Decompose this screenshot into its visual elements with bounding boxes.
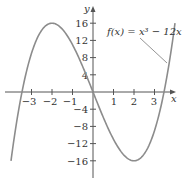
svg-text:−2: −2 bbox=[43, 96, 58, 107]
label-leader-line bbox=[140, 38, 167, 63]
svg-text:−8: −8 bbox=[73, 121, 88, 132]
x-tick-labels: −3 −2 −1 1 2 3 bbox=[22, 96, 158, 107]
svg-text:12: 12 bbox=[75, 35, 88, 46]
y-axis-label: y bbox=[83, 3, 90, 14]
svg-text:1: 1 bbox=[111, 96, 117, 107]
y-axis-arrow-icon bbox=[91, 6, 96, 12]
function-plot: −3 −2 −1 1 2 3 16 12 8 4 −4 −8 −12 −16 x… bbox=[0, 0, 183, 183]
svg-text:−3: −3 bbox=[22, 96, 37, 107]
x-axis-label: x bbox=[171, 93, 177, 104]
svg-text:−12: −12 bbox=[67, 138, 88, 149]
svg-text:2: 2 bbox=[131, 96, 137, 107]
svg-text:8: 8 bbox=[82, 52, 88, 63]
svg-text:−16: −16 bbox=[67, 156, 88, 167]
function-label: f(x) = x³ − 12x bbox=[106, 26, 182, 37]
svg-text:16: 16 bbox=[75, 18, 88, 29]
svg-text:3: 3 bbox=[151, 96, 157, 107]
svg-text:−4: −4 bbox=[73, 104, 88, 115]
